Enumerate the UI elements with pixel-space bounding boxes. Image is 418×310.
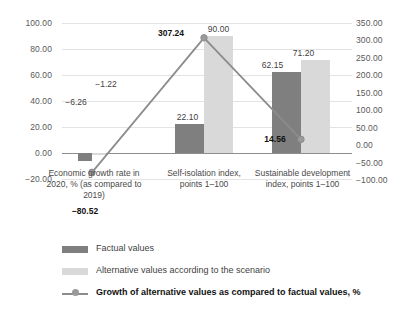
right-axis-tick: −50.00 xyxy=(356,159,414,168)
legend-item-factual: Factual values xyxy=(62,240,402,262)
plot-area xyxy=(62,23,352,179)
bar-label-alternative-3: 71.20 xyxy=(286,49,321,58)
left-axis-tick: 0.00 xyxy=(0,149,52,158)
bar-label-alternative-2: 90.00 xyxy=(201,25,236,34)
left-axis-tick: 40.00 xyxy=(0,97,52,106)
left-axis-tick: 60.00 xyxy=(0,71,52,80)
legend-swatch-factual-icon xyxy=(62,246,88,253)
right-axis-tick: 150.00 xyxy=(356,89,414,98)
right-axis-tick: −100.00 xyxy=(356,176,414,185)
bar-label-factual-1: −6.26 xyxy=(56,98,96,107)
bar-alternative-1 xyxy=(92,153,106,155)
left-axis-tick: 80.00 xyxy=(0,45,52,54)
bar-label-alternative-1: −1.22 xyxy=(86,80,126,89)
bar-alternative-2 xyxy=(204,36,233,153)
right-axis-tick: 300.00 xyxy=(356,36,414,45)
legend-marker-icon xyxy=(72,289,79,296)
legend-label-growth-line: Growth of alternative values as compared… xyxy=(96,286,361,298)
line-label-2: 307.24 xyxy=(148,29,194,38)
right-axis-tick: 0.00 xyxy=(356,141,414,150)
legend-item-alternative: Alternative values according to the scen… xyxy=(62,262,402,284)
right-axis-tick: 50.00 xyxy=(356,124,414,133)
legend-label-factual: Factual values xyxy=(96,242,154,254)
left-axis-tick: 20.00 xyxy=(0,123,52,132)
gridline xyxy=(62,23,352,24)
right-axis-tick: 200.00 xyxy=(356,71,414,80)
bar-alternative-3 xyxy=(301,60,330,153)
left-axis-tick: 100.00 xyxy=(0,19,52,28)
legend-swatch-alternative-icon xyxy=(62,268,88,275)
chart-legend: Factual values Alternative values accord… xyxy=(62,240,402,306)
right-axis-tick: 100.00 xyxy=(356,106,414,115)
category-label-1: Economic growth rate in 2020, % (as comp… xyxy=(40,168,148,201)
line-label-3: 14.56 xyxy=(254,135,296,144)
bar-factual-2 xyxy=(175,124,204,153)
legend-label-alternative: Alternative values according to the scen… xyxy=(96,264,270,276)
legend-item-growth-line: Growth of alternative values as compared… xyxy=(62,284,402,306)
category-label-3: Sustainable development index, points 1–… xyxy=(250,168,355,190)
bar-label-factual-3: 62.15 xyxy=(255,61,290,70)
bar-label-factual-2: 22.10 xyxy=(170,113,205,122)
line-label-1: −80.52 xyxy=(62,207,108,216)
bar-factual-1 xyxy=(78,153,92,161)
category-label-2: Self-isolation index, points 1–100 xyxy=(158,168,250,190)
right-axis-tick: 250.00 xyxy=(356,54,414,63)
chart-container: 100.00 80.00 60.00 40.00 20.00 0.00 −20.… xyxy=(0,0,418,310)
right-axis-tick: 350.00 xyxy=(356,19,414,28)
